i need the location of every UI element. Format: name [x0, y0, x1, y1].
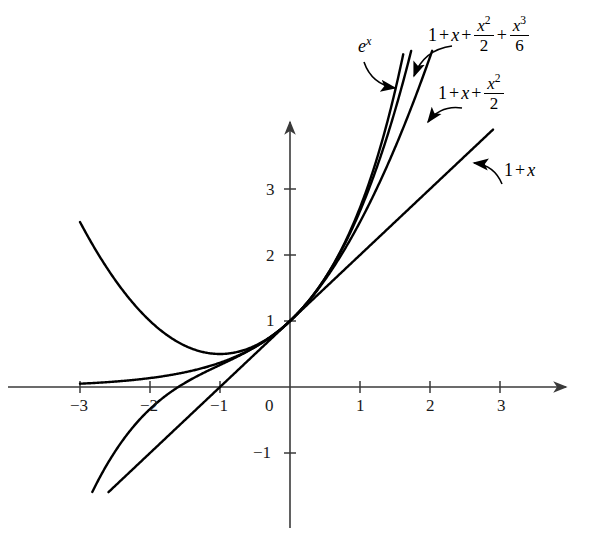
curve-quadratic — [80, 51, 432, 354]
cubic-fraction-x3-6: x36 — [510, 17, 529, 55]
quad-frac-denominator: 2 — [484, 94, 503, 113]
arrow-label-linear — [474, 163, 502, 184]
curve-label-exp-exponent: x — [366, 34, 371, 48]
curve-cubic — [92, 51, 411, 492]
quad-term-one: 1 — [438, 83, 447, 103]
cubic-plus-3: + — [495, 25, 509, 45]
arrow-label-ex — [364, 62, 395, 88]
quad-frac-numerator: x2 — [484, 75, 503, 94]
curve-label-quadratic: 1+x+x22 — [438, 76, 505, 114]
quad-fraction-x2-2: x22 — [484, 75, 503, 113]
curve-label-exp-base: e — [358, 36, 366, 56]
y-tick-label-2: 2 — [266, 246, 275, 266]
curve-label-linear: 1+x — [504, 160, 535, 181]
cubic-frac1-numerator: x2 — [474, 17, 493, 36]
linear-plus: + — [513, 160, 527, 180]
x-tick-label-3: 3 — [497, 396, 506, 416]
quad-term-x: x — [461, 83, 469, 103]
linear-term-one: 1 — [504, 160, 513, 180]
cubic-frac2-denominator: 6 — [510, 36, 529, 55]
x-tick-label--2: −2 — [140, 396, 158, 416]
annotation-arrows-group — [364, 46, 502, 184]
linear-term-x: x — [527, 160, 535, 180]
x-tick-label-2: 2 — [426, 396, 435, 416]
cubic-term-x: x — [451, 25, 459, 45]
x-tick-label--1: −1 — [210, 396, 228, 416]
quad-plus-1: + — [447, 83, 461, 103]
cubic-fraction-x2-2: x22 — [474, 17, 493, 55]
curve-label-exp: ex — [358, 36, 371, 57]
x-tick-label--3: −3 — [70, 396, 88, 416]
y-tick-label--1: −1 — [253, 443, 271, 463]
x-tick-label-1: 1 — [356, 396, 365, 416]
y-tick-label-1: 1 — [266, 311, 275, 331]
quad-plus-2: + — [469, 83, 483, 103]
cubic-frac2-numerator: x3 — [510, 17, 529, 36]
cubic-plus-1: + — [437, 25, 451, 45]
taylor-polynomial-figure: −3 −2 −1 0 1 2 3 3 2 1 −1 ex 1+x+x22+x36… — [0, 0, 590, 535]
curve-exp — [80, 54, 403, 383]
y-tick-label-3: 3 — [266, 180, 275, 200]
cubic-frac1-denominator: 2 — [474, 36, 493, 55]
curve-linear — [109, 130, 493, 493]
curve-label-cubic: 1+x+x22+x36 — [428, 18, 530, 56]
curves-group — [80, 51, 493, 492]
x-tick-label-0: 0 — [265, 396, 274, 416]
cubic-term-one: 1 — [428, 25, 437, 45]
cubic-plus-2: + — [459, 25, 473, 45]
